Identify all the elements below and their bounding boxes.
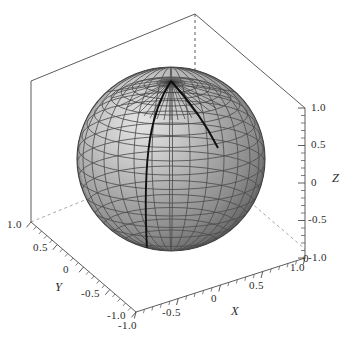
- z-tick-label-4: -0.5: [308, 214, 327, 225]
- x-tick-label-3: 0: [211, 293, 217, 304]
- x-tick-label-2: -0.5: [162, 307, 181, 318]
- z-tick-label-2: 0.5: [311, 139, 326, 150]
- z-tick-label-1: 1.0: [311, 102, 326, 113]
- z-tick-label-5: -1.0: [308, 252, 327, 263]
- corner-origin-label: 0: [303, 253, 309, 264]
- x-tick-label-4: 0.5: [249, 280, 264, 291]
- plot-canvas: [0, 0, 353, 354]
- z-axis-title: Z: [332, 172, 339, 185]
- y-tick-label-3: 0: [63, 264, 69, 275]
- y-tick-label-4: -0.5: [81, 288, 100, 299]
- z-tick-label-3: 0: [311, 177, 317, 188]
- z-axis-ticks: [298, 108, 305, 258]
- y-axis-title: Y: [55, 281, 62, 294]
- x-axis-ticks: [134, 258, 305, 319]
- x-tick-label-1: -1.0: [118, 320, 137, 331]
- sphere-surface: [77, 67, 265, 258]
- y-tick-label-2: 0.5: [33, 242, 48, 253]
- y-tick-label-1: 1.0: [7, 219, 22, 230]
- x-axis-title: X: [231, 305, 239, 318]
- sphere-plot-figure: 1.0 0.5 0 -0.5 -1.0 Z 1.0 0.5 0 -0.5 -1.…: [0, 0, 353, 354]
